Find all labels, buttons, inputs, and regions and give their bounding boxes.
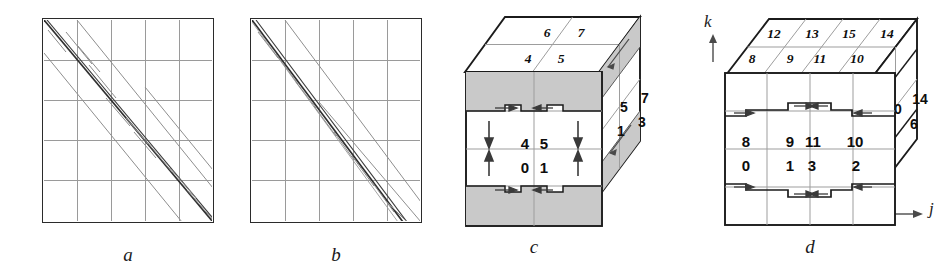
cube-d-right-lower-1: 6 [904, 117, 924, 131]
cube-c-front-upper-1: 5 [536, 136, 552, 151]
cube-d-front-lower-2: 3 [801, 158, 823, 173]
caption-d: d [790, 236, 830, 258]
cube-d-right-upper-1: 14 [908, 92, 932, 106]
cube-d-top-front-0: 8 [741, 52, 763, 66]
cube-c-right-lower-0: 1 [613, 124, 629, 138]
cube-d-front-upper-3: 10 [843, 134, 867, 149]
diagonal-lines-b [252, 20, 421, 222]
caption-b: b [316, 244, 356, 266]
matrix-content-a [44, 20, 213, 222]
cube-c-front-lower-0: 0 [517, 160, 533, 175]
caption-c: c [514, 236, 554, 258]
cube-c-top-front-1: 5 [551, 52, 571, 66]
cube-d-top-front-1: 9 [779, 52, 801, 66]
cube-c-right-upper-0: 5 [616, 100, 632, 114]
cube-d-front-lower-0: 0 [735, 158, 757, 173]
figure-root: a [0, 0, 951, 267]
cube-c-front-lower-1: 1 [536, 160, 552, 175]
cube-c-right-upper-1: 7 [637, 91, 653, 105]
cube-c-top-front-0: 4 [518, 52, 538, 66]
panel-b: b [250, 18, 422, 223]
cube-d-top-back-1: 13 [800, 27, 824, 41]
cube-d-front-upper-0: 8 [735, 134, 757, 149]
cube-d-front-upper-1: 9 [779, 134, 801, 149]
cube-d-top-back-2: 15 [837, 27, 861, 41]
cube-d-front-lower-1: 1 [779, 158, 801, 173]
caption-a: a [108, 244, 148, 266]
cube-c-top-back-1: 7 [571, 26, 591, 40]
panel-c: 6 7 4 5 5 7 1 3 [465, 14, 680, 249]
cube-d-top-front-3: 10 [846, 52, 868, 66]
axis-arrow-k [705, 28, 725, 64]
cube-d-front-lower-3: 2 [845, 158, 867, 173]
axis-label-j: j [929, 199, 934, 219]
cube-c-front-face [465, 71, 603, 227]
cube-c-front-upper-0: 4 [517, 136, 533, 151]
cube-c-top-back-0: 6 [537, 26, 557, 40]
panel-d: k j 12 13 15 14 8 9 11 10 [705, 14, 945, 249]
diagonal-lines-a [44, 20, 213, 222]
cube-d-top-front-2: 11 [809, 52, 831, 66]
panel-a: a [42, 18, 214, 223]
cube-c-right-lower-1: 3 [634, 115, 650, 129]
cube-d-front-upper-2: 11 [801, 134, 825, 149]
cube-c-right-face [599, 17, 684, 202]
cube-d-top-back-0: 12 [762, 27, 786, 41]
matrix-content-b [252, 20, 421, 222]
